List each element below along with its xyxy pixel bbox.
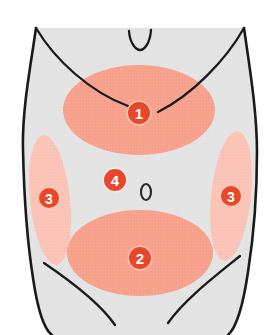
region-badge-1[interactable]: 1 [127,101,152,126]
badge-3-left-label: 3 [45,191,53,207]
badge-2-label: 2 [136,250,144,267]
badge-3-right-label: 3 [227,189,235,205]
badge-1-label: 1 [135,105,143,122]
abdominal-regions-diagram: 1 2 3 3 [0,0,279,335]
torso-illustration: 1 2 3 3 [0,0,279,335]
badge-4-label: 4 [111,172,120,189]
region-badge-3-right[interactable]: 3 [220,185,243,208]
region-badge-3-left[interactable]: 3 [38,187,61,210]
region-badge-4[interactable]: 4 [103,168,128,193]
region-badge-2[interactable]: 2 [128,246,153,271]
